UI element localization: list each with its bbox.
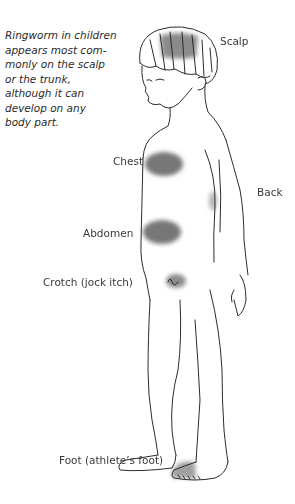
label-abdomen: Abdomen xyxy=(83,227,133,239)
chest-lesion xyxy=(145,152,183,176)
body-outline xyxy=(119,27,248,480)
label-foot: Foot (athlete’s foot) xyxy=(59,454,163,466)
label-back: Back xyxy=(257,186,283,198)
label-chest: Chest xyxy=(113,155,143,167)
back-lesion xyxy=(209,191,217,211)
label-scalp: Scalp xyxy=(220,35,248,47)
abdomen-lesion xyxy=(143,220,181,244)
crotch-lesion xyxy=(166,274,186,288)
child-body-illustration xyxy=(0,0,295,504)
label-crotch: Crotch (jock itch) xyxy=(43,276,133,288)
lesion-markers xyxy=(143,33,217,478)
